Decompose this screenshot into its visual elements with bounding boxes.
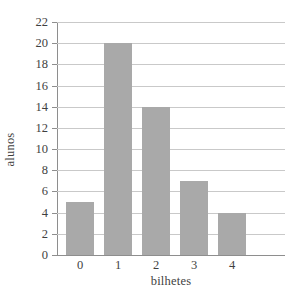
y-tick-label: 22 (24, 15, 48, 30)
bar (218, 213, 246, 255)
bar (66, 202, 94, 255)
gridline (57, 64, 285, 65)
x-axis-baseline (57, 255, 285, 256)
gridline (57, 191, 285, 192)
gridline (57, 128, 285, 129)
y-tick-mark (52, 107, 57, 108)
y-tick-label: 4 (24, 205, 48, 220)
bar-chart: alunos 0246810121416182022 01234 bilhete… (0, 0, 295, 299)
gridline (57, 170, 285, 171)
y-tick-mark (52, 64, 57, 65)
y-tick-mark (52, 213, 57, 214)
y-tick-label: 18 (24, 57, 48, 72)
y-tick-mark (52, 191, 57, 192)
gridline (57, 107, 285, 108)
y-tick-mark (52, 43, 57, 44)
y-tick-label: 8 (24, 163, 48, 178)
x-tick-label: 0 (77, 258, 83, 273)
y-tick-mark (52, 86, 57, 87)
x-axis-title: bilhetes (57, 274, 285, 289)
x-tick-label: 3 (191, 258, 197, 273)
bar (142, 107, 170, 255)
y-tick-label: 20 (24, 36, 48, 51)
y-tick-mark (52, 255, 57, 256)
y-tick-label: 6 (24, 184, 48, 199)
gridline (57, 43, 285, 44)
y-tick-mark (52, 234, 57, 235)
y-tick-mark (52, 22, 57, 23)
y-tick-mark (52, 128, 57, 129)
bar (180, 181, 208, 255)
y-tick-label: 14 (24, 99, 48, 114)
x-tick-label: 2 (153, 258, 159, 273)
y-tick-mark (52, 170, 57, 171)
y-tick-mark (52, 149, 57, 150)
y-tick-label: 10 (24, 142, 48, 157)
x-tick-label: 4 (229, 258, 235, 273)
gridline (57, 149, 285, 150)
gridline (57, 86, 285, 87)
y-tick-label: 16 (24, 78, 48, 93)
y-tick-label: 0 (24, 248, 48, 263)
y-tick-label: 2 (24, 226, 48, 241)
gridline (57, 22, 285, 23)
bar (104, 43, 132, 255)
y-axis-title: alunos (0, 0, 22, 299)
y-axis-title-text: alunos (4, 133, 19, 167)
y-tick-label: 12 (24, 120, 48, 135)
x-tick-label: 1 (115, 258, 121, 273)
plot-area (57, 22, 285, 255)
